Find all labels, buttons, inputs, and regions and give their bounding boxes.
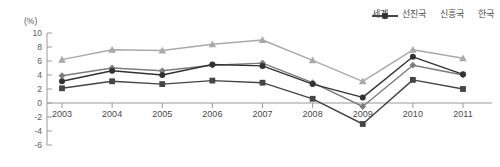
x-axis-tick-label: 2003	[42, 110, 82, 119]
data-point-square	[59, 85, 65, 91]
y-axis-tick-label: 0	[20, 99, 42, 108]
x-axis-tick-label: 2006	[192, 110, 232, 119]
data-point-circle	[410, 54, 416, 60]
x-axis-tick-label: 2004	[92, 110, 132, 119]
y-axis-tick-label: -4	[20, 127, 42, 136]
data-point-triangle	[409, 46, 417, 53]
x-axis-tick-label: 2008	[293, 110, 333, 119]
data-point-circle	[310, 81, 316, 87]
x-axis-tick-label: 2007	[243, 110, 283, 119]
data-point-square	[209, 78, 215, 84]
series-1	[59, 77, 466, 127]
data-point-diamond	[59, 72, 66, 79]
data-point-circle	[260, 63, 266, 69]
y-axis-tick-label: 2	[20, 85, 42, 94]
y-axis-tick-label: -6	[20, 141, 42, 150]
data-point-square	[109, 78, 115, 84]
data-point-circle	[59, 78, 65, 84]
data-point-square	[460, 86, 466, 92]
y-axis-tick-label: 10	[20, 29, 42, 38]
y-axis-tick-label: 4	[20, 71, 42, 80]
data-point-square	[310, 96, 316, 102]
data-point-square	[410, 77, 416, 83]
data-point-circle	[109, 68, 115, 74]
x-axis-tick-label: 2010	[393, 110, 433, 119]
plot-area	[0, 0, 500, 167]
y-axis-tick-label: 8	[20, 43, 42, 52]
x-axis-tick-label: 2011	[443, 110, 483, 119]
data-point-square	[260, 80, 266, 86]
y-axis-tick-label: -2	[20, 113, 42, 122]
x-axis-tick-label: 2009	[343, 110, 383, 119]
data-point-circle	[209, 62, 215, 68]
x-axis-tick-label: 2005	[142, 110, 182, 119]
line-chart: (%) 세계 선진국 신흥국 한국 1086420-2-4-6 20032004…	[0, 0, 500, 167]
y-axis-tick-label: 6	[20, 57, 42, 66]
data-point-circle	[360, 94, 366, 100]
data-point-circle	[159, 72, 165, 78]
data-point-circle	[460, 71, 466, 77]
data-point-square	[159, 81, 165, 87]
data-point-square	[360, 121, 366, 127]
